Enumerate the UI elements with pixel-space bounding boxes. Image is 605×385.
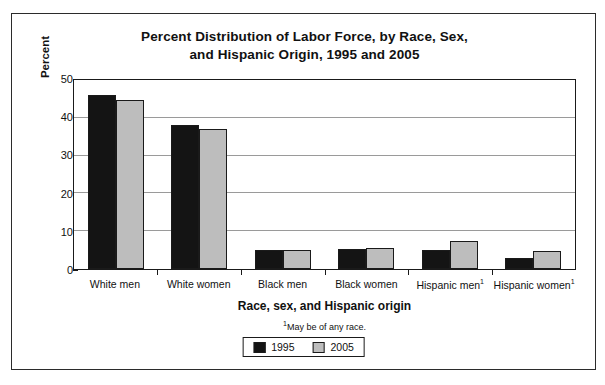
figure-frame: Percent Distribution of Labor Force, by … bbox=[11, 13, 596, 370]
bar-group bbox=[325, 80, 409, 269]
x-axis-label: Hispanic men1 bbox=[408, 278, 492, 291]
x-tick-mark bbox=[325, 270, 326, 275]
x-tick-mark bbox=[408, 270, 409, 275]
legend-label: 2005 bbox=[331, 341, 354, 353]
x-tick-mark bbox=[241, 270, 242, 275]
bars-layer bbox=[74, 80, 575, 269]
bar-group bbox=[74, 80, 158, 269]
bar-2005[interactable] bbox=[199, 129, 227, 269]
bar-2005[interactable] bbox=[366, 248, 394, 269]
legend-label: 1995 bbox=[271, 341, 294, 353]
legend-swatch bbox=[313, 342, 325, 353]
chart-footnote: 1May be of any race. bbox=[73, 320, 576, 332]
bar-group bbox=[408, 80, 492, 269]
x-label-footnote-marker: 1 bbox=[571, 278, 575, 285]
x-axis-label: Hispanic women1 bbox=[492, 278, 576, 291]
chart-title-line-2: and Hispanic Origin, 1995 and 2005 bbox=[12, 46, 597, 64]
y-tick-label: 0 bbox=[47, 264, 73, 276]
bar-1995[interactable] bbox=[505, 258, 533, 269]
bar-1995[interactable] bbox=[338, 249, 366, 269]
y-tick-label: 10 bbox=[47, 226, 73, 238]
x-axis-label: White men bbox=[73, 278, 157, 291]
bar-1995[interactable] bbox=[171, 125, 199, 269]
bar-group bbox=[241, 80, 325, 269]
bar-2005[interactable] bbox=[116, 100, 144, 269]
legend-swatch bbox=[253, 342, 265, 353]
bar-1995[interactable] bbox=[88, 95, 116, 269]
x-label-footnote-marker: 1 bbox=[480, 278, 484, 285]
y-tick-label: 40 bbox=[47, 111, 73, 123]
legend-item[interactable]: 2005 bbox=[313, 341, 354, 353]
y-tick-label: 30 bbox=[47, 149, 73, 161]
y-axis-ticks: 01020304050 bbox=[40, 79, 73, 270]
footnote-text: May be of any race. bbox=[287, 322, 366, 332]
bar-2005[interactable] bbox=[533, 251, 561, 269]
plot-area bbox=[73, 79, 576, 270]
x-axis-label: White women bbox=[157, 278, 241, 291]
y-tick-label: 20 bbox=[47, 188, 73, 200]
x-axis-ticks bbox=[73, 270, 576, 276]
x-axis-title: Race, sex, and Hispanic origin bbox=[73, 299, 576, 313]
chart-title-line-1: Percent Distribution of Labor Force, by … bbox=[12, 28, 597, 46]
x-tick-mark bbox=[492, 270, 493, 275]
bar-2005[interactable] bbox=[450, 241, 478, 269]
y-tick-label: 50 bbox=[47, 73, 73, 85]
x-tick-mark bbox=[157, 270, 158, 275]
legend-item[interactable]: 1995 bbox=[253, 341, 294, 353]
x-axis-label: Black men bbox=[241, 278, 325, 291]
bar-group bbox=[158, 80, 242, 269]
bar-1995[interactable] bbox=[422, 250, 450, 269]
chart-legend: 19952005 bbox=[242, 337, 365, 357]
bar-1995[interactable] bbox=[255, 250, 283, 269]
bar-2005[interactable] bbox=[283, 250, 311, 269]
bar-group bbox=[492, 80, 576, 269]
x-axis-labels: White menWhite womenBlack menBlack women… bbox=[73, 278, 576, 291]
x-axis-label: Black women bbox=[324, 278, 408, 291]
chart-title: Percent Distribution of Labor Force, by … bbox=[12, 28, 597, 64]
